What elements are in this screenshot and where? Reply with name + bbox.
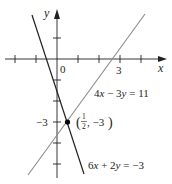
line-6x-plus-2y-eq-neg3 <box>32 15 84 174</box>
origin-label: 0 <box>60 63 66 75</box>
x-tick-label-3: 3 <box>116 64 122 76</box>
svg-text:2: 2 <box>82 122 86 131</box>
equation-label-line2: 6x + 2y = −3 <box>88 159 144 171</box>
svg-text:(: ( <box>76 115 81 131</box>
equation-label-line1: 4x − 3y = 11 <box>94 87 149 99</box>
coordinate-plane: y x 0 3 −3 4x − 3y = 11 ( 1 2 , −3 ) 6x … <box>0 0 172 184</box>
y-axis-label: y <box>43 6 50 20</box>
x-axis-label: x <box>157 61 164 75</box>
svg-text:): ) <box>108 115 113 131</box>
svg-text:, −3: , −3 <box>87 116 105 128</box>
svg-text:1: 1 <box>82 112 86 121</box>
graph-figure: y x 0 3 −3 4x − 3y = 11 ( 1 2 , −3 ) 6x … <box>0 0 172 184</box>
y-tick-label-neg3: −3 <box>36 116 48 128</box>
y-axis-arrow-icon <box>54 9 60 19</box>
x-axis <box>5 55 167 63</box>
intersection-point-label: ( 1 2 , −3 ) <box>76 112 113 131</box>
intersection-point <box>65 119 70 124</box>
y-axis <box>53 9 61 178</box>
